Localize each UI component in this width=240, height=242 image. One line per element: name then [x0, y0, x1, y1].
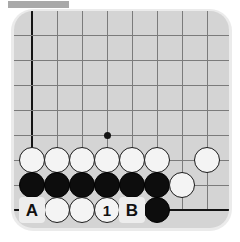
stone-black[interactable]	[19, 172, 45, 198]
stone-black[interactable]	[94, 172, 120, 198]
top-gray-strip	[8, 1, 69, 8]
stone-white[interactable]	[169, 172, 195, 198]
stone-white[interactable]	[69, 197, 95, 223]
stone-white[interactable]	[194, 147, 220, 173]
stone-white[interactable]	[19, 147, 45, 173]
stone-layer[interactable]: 1AB	[14, 11, 229, 228]
stone-black[interactable]	[144, 172, 170, 198]
stone-black[interactable]	[69, 172, 95, 198]
go-board[interactable]: 1AB	[14, 11, 229, 228]
stone-white[interactable]	[94, 147, 120, 173]
stone-white[interactable]	[119, 147, 145, 173]
stone-white-numbered[interactable]: 1	[94, 197, 120, 223]
stone-black[interactable]	[144, 197, 170, 223]
stone-black[interactable]	[119, 172, 145, 198]
go-diagram-root: 1AB	[0, 0, 240, 242]
stone-white[interactable]	[44, 197, 70, 223]
stone-white[interactable]	[144, 147, 170, 173]
stone-white[interactable]	[69, 147, 95, 173]
stone-white[interactable]	[44, 147, 70, 173]
point-label-B[interactable]: B	[119, 197, 145, 223]
point-label-A[interactable]: A	[19, 197, 45, 223]
stone-black[interactable]	[44, 172, 70, 198]
